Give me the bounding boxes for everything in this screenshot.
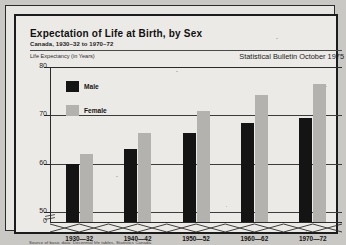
legend-label-female: Female	[84, 107, 107, 114]
legend-swatch-male	[66, 81, 79, 92]
screenshot-canvas: Expectation of Life at Birth, by Sex Can…	[0, 0, 342, 238]
legend-swatch-female	[66, 105, 79, 116]
scan-speck	[326, 86, 327, 87]
bar-male-1	[124, 149, 137, 222]
bar-female-4	[313, 84, 326, 222]
chart-inner-frame: Expectation of Life at Birth, by Sex Can…	[14, 14, 338, 234]
legend-label-male: Male	[84, 83, 99, 90]
scan-speck	[176, 71, 178, 72]
y-tick-label-0: 0	[28, 217, 47, 224]
bar-female-3	[255, 95, 268, 222]
bar-male-2	[183, 133, 196, 222]
bar-male-0	[66, 164, 79, 222]
x-axis-label-4: 1970—72	[284, 235, 342, 242]
y-tick-label-70: 70	[28, 110, 47, 117]
scan-speck	[226, 206, 227, 207]
source-note: Source of basic data: Decennial life tab…	[29, 240, 152, 245]
bar-female-1	[138, 133, 151, 222]
scan-speck	[56, 226, 58, 227]
chart-content: Expectation of Life at Birth, by Sex Can…	[26, 26, 346, 242]
plot-area: 807060500MaleFemale	[26, 26, 346, 242]
x-axis-label-3: 1960—62	[225, 235, 283, 242]
bar-female-0	[80, 154, 93, 222]
bar-female-2	[197, 111, 210, 222]
y-tick-label-60: 60	[28, 159, 47, 166]
axis-break-mark-0	[45, 214, 55, 217]
gridline-70	[50, 115, 342, 116]
bar-male-4	[299, 118, 312, 222]
bar-male-3	[241, 123, 254, 222]
scan-speck	[276, 38, 278, 39]
y-tick-label-80: 80	[28, 62, 47, 69]
scan-speck	[306, 231, 307, 232]
chart-outer-frame: Expectation of Life at Birth, by Sex Can…	[5, 5, 335, 231]
scan-speck	[86, 34, 87, 35]
baseline-ornament	[50, 222, 342, 234]
gridline-80	[50, 67, 342, 68]
scan-speck	[116, 176, 118, 177]
y-tick-label-50: 50	[28, 207, 47, 214]
y-axis-line	[50, 67, 51, 222]
x-axis-label-2: 1950—52	[167, 235, 225, 242]
